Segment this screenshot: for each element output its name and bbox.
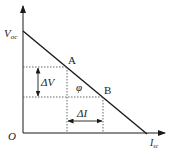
delta-i-label: ΔI [76, 107, 88, 119]
point-a-label: A [68, 54, 76, 66]
y-axis-label: Voc [4, 27, 18, 41]
angle-phi-label: φ [76, 81, 82, 93]
diagram-svg: Voc Isc O A B φ ΔV ΔI [0, 0, 178, 152]
delta-v-label: ΔV [40, 76, 55, 88]
point-b-label: B [104, 84, 111, 96]
x-axis-label: Isc [149, 137, 159, 149]
origin-label: O [8, 130, 16, 142]
iv-diagram: Voc Isc O A B φ ΔV ΔI [0, 0, 178, 152]
